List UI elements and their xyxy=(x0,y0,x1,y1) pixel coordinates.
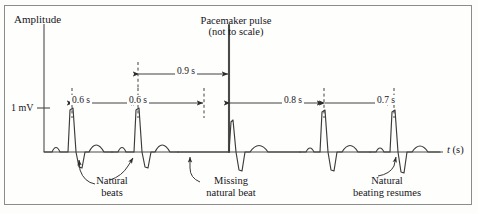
caption-beating-resumes-line2: beating resumes xyxy=(332,187,442,199)
x-axis-label-unit: (s) xyxy=(453,144,464,155)
ecg-beat-3 xyxy=(300,110,370,171)
x-axis-label-symbol: t xyxy=(447,144,450,155)
ecg-paced-beat-response xyxy=(229,120,300,171)
interval-label-0-6-a: 0.6 s xyxy=(70,95,92,105)
caption-natural-beats: Natural beats xyxy=(82,175,142,199)
caption-beating-resumes-line1: Natural xyxy=(371,175,403,186)
interval-label-0-9: 0.9 s xyxy=(175,66,197,76)
ecg-beat-2 xyxy=(112,108,178,168)
dimension-0-8 xyxy=(230,88,324,118)
y-axis-tick-label: 1 mV xyxy=(11,103,34,114)
ecg-beat-4 xyxy=(370,110,440,173)
pacemaker-pulse-label: Pacemaker pulse (not to scale) xyxy=(182,15,290,38)
interval-label-0-7: 0.7 s xyxy=(375,95,397,105)
caption-missing-beat-line1: Missing xyxy=(214,175,248,186)
caption-beating-resumes: Natural beating resumes xyxy=(332,175,442,199)
pacemaker-label-line1: Pacemaker pulse xyxy=(201,15,272,26)
pacemaker-label-line2: (not to scale) xyxy=(182,26,290,37)
axis-group xyxy=(37,24,443,152)
y-axis-label: Amplitude xyxy=(14,14,61,26)
interval-label-0-8: 0.8 s xyxy=(282,95,304,105)
ecg-pacemaker-figure: Amplitude 1 mV Pacemaker pulse (not to s… xyxy=(0,0,478,214)
caption-natural-beats-line2: beats xyxy=(82,187,142,199)
leader-beating-resumes xyxy=(378,157,396,176)
caption-natural-beats-line1: Natural xyxy=(96,175,128,186)
interval-label-0-6-b: 0.6 s xyxy=(127,95,149,105)
ecg-beat-1 xyxy=(44,108,112,168)
caption-missing-beat: Missing natural beat xyxy=(193,175,269,199)
x-axis-label: t (s) xyxy=(447,144,464,155)
caption-missing-beat-line2: natural beat xyxy=(193,187,269,199)
